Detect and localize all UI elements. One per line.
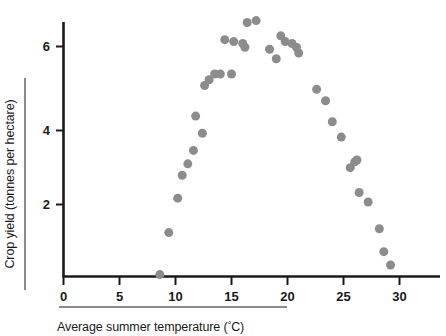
x-tick-label-25: 25 (336, 289, 350, 304)
x-axis-tick-labels: 0 5 10 15 20 25 30 (60, 289, 407, 304)
data-point (386, 261, 395, 270)
y-tick-label-2: 2 (43, 197, 50, 212)
data-point-group (155, 16, 395, 279)
data-point (312, 85, 321, 94)
x-tick-label-20: 20 (280, 289, 294, 304)
data-point (216, 70, 225, 79)
data-point (364, 198, 373, 207)
x-axis-title-rule (59, 306, 287, 308)
axis-lines (63, 22, 441, 277)
data-point (191, 112, 200, 121)
y-axis-tick-labels: 6 4 2 (43, 39, 51, 212)
plot-area: 6 4 2 0 5 10 15 20 25 30 (0, 0, 446, 336)
data-point (173, 194, 182, 203)
x-tick-label-30: 30 (392, 289, 406, 304)
x-tick-label-5: 5 (116, 289, 123, 304)
x-axis-title-main: Average summer temperature ( (57, 320, 228, 334)
y-tick-label-6: 6 (43, 39, 50, 54)
data-point (155, 270, 164, 279)
x-axis-title-group: Average summer temperature (°C) (57, 306, 317, 336)
data-point (178, 171, 187, 180)
y-tick-label-4: 4 (43, 123, 51, 138)
data-point (243, 18, 252, 27)
data-point (265, 45, 274, 54)
data-point (352, 155, 361, 164)
data-point (183, 159, 192, 168)
data-point (272, 54, 281, 63)
data-point (379, 247, 388, 256)
data-point (198, 129, 207, 138)
data-point (355, 188, 364, 197)
x-tick-label-10: 10 (168, 289, 182, 304)
scatter-chart: Crop yield (tonnes per hectare) 6 4 (0, 0, 446, 336)
data-point (252, 16, 261, 25)
data-point (240, 43, 249, 52)
data-point (227, 70, 236, 79)
data-point (189, 146, 198, 155)
data-point (321, 96, 330, 105)
x-tick-label-0: 0 (60, 289, 67, 304)
data-point (220, 35, 229, 44)
data-point (375, 224, 384, 233)
data-point (164, 228, 173, 237)
y-axis-ticks (56, 47, 63, 205)
data-point (337, 133, 346, 142)
data-point (294, 49, 303, 58)
x-axis-title: Average summer temperature (°C) (57, 316, 244, 336)
x-axis-title-tail: C) (231, 320, 244, 334)
data-point (229, 37, 238, 46)
x-tick-label-15: 15 (224, 289, 238, 304)
data-point (328, 117, 337, 126)
